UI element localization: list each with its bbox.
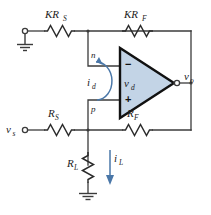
resistor-rs-zigzag (44, 125, 75, 136)
resistor-rl: R L (66, 152, 94, 193)
resistor-krs-label: KR (44, 8, 59, 20)
current-il: i L (106, 150, 123, 185)
current-id-sub: d (92, 82, 96, 91)
current-id-arc (96, 62, 112, 100)
source-sub: s (13, 129, 16, 138)
ground-terminal-bottom (79, 194, 97, 200)
node-dot-n (86, 29, 89, 32)
resistor-rf-label: R (126, 107, 134, 119)
resistor-krf: KR F (122, 8, 153, 37)
opamp-circuit-diagram: KR S KR F n p − + v d (0, 0, 211, 215)
current-il-sub: L (118, 158, 123, 167)
resistor-rf-zigzag (122, 125, 153, 136)
current-il-label: i (114, 152, 117, 164)
resistor-rs-label: R (47, 107, 55, 119)
opamp-vd-sub: d (131, 83, 135, 92)
resistor-rl-sub: L (73, 163, 78, 172)
output-label: v (184, 70, 189, 82)
opamp-minus-sign: − (125, 58, 131, 70)
resistor-krs-zigzag (44, 26, 75, 37)
resistor-rf: R F (122, 107, 153, 136)
resistor-krs-sub: S (63, 14, 67, 23)
resistor-rf-sub: F (133, 113, 139, 122)
resistor-rs-sub: S (55, 113, 59, 122)
terminal-circle-vo[interactable] (174, 80, 179, 85)
current-id-arrowhead (96, 57, 103, 65)
inverting-input-branch: n (86, 29, 120, 66)
resistor-rs: R S (44, 107, 75, 136)
source-terminal: v s (6, 123, 28, 138)
source-label: v (6, 123, 11, 135)
terminal-circle-vs[interactable] (22, 127, 27, 132)
terminal-circle-top-left[interactable] (22, 28, 27, 33)
current-id: i d (87, 57, 112, 100)
ground-terminal-top-left (17, 28, 33, 50)
node-label-n: n (91, 50, 96, 60)
resistor-rl-label: R (66, 157, 74, 169)
resistor-krf-sub: F (141, 14, 147, 23)
current-id-label: i (87, 76, 90, 88)
node-label-p: p (90, 104, 96, 114)
opamp-vd-label: v (124, 77, 129, 89)
current-il-arrowhead (106, 175, 114, 185)
output-sub: o (190, 76, 194, 85)
opamp-plus-sign: + (125, 93, 131, 105)
resistor-krf-label: KR (123, 8, 138, 20)
wire-n-to-inverting-input (88, 31, 120, 66)
resistor-krs: KR S (44, 8, 75, 37)
